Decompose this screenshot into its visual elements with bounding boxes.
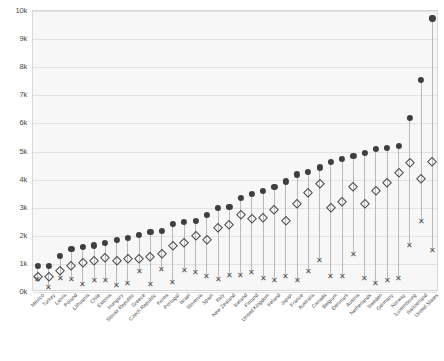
y-axis-tick-label: 5k (19, 146, 27, 155)
diamond-marker (405, 158, 415, 168)
cross-marker: ✕ (418, 217, 425, 224)
connector-line (229, 207, 230, 275)
data-column: ✕ (235, 10, 246, 291)
data-column: ✕ (370, 10, 381, 291)
data-column: ✕ (145, 10, 156, 291)
diamond-marker (156, 249, 166, 259)
data-column: ✕ (77, 10, 88, 291)
cross-marker: ✕ (181, 266, 188, 273)
circle-marker (305, 168, 311, 174)
connector-line (330, 162, 331, 277)
connector-line (274, 187, 275, 280)
cross-marker: ✕ (282, 273, 289, 280)
data-column: ✕ (66, 10, 77, 291)
circle-marker (226, 204, 232, 210)
data-column: ✕ (179, 10, 190, 291)
diamond-marker (427, 157, 437, 167)
circle-marker (407, 115, 413, 121)
diamond-marker (89, 255, 99, 265)
circle-marker (204, 212, 210, 218)
data-column: ✕ (325, 10, 336, 291)
diamond-marker (179, 238, 189, 248)
cross-marker: ✕ (45, 284, 52, 291)
connector-line (263, 191, 264, 278)
circle-marker (113, 236, 119, 242)
circle-marker (362, 150, 368, 156)
cross-marker: ✕ (237, 271, 244, 278)
cross-marker: ✕ (169, 278, 176, 285)
connector-line (251, 194, 252, 272)
connector-line (432, 18, 433, 250)
circle-marker (57, 253, 63, 259)
diamond-marker (416, 173, 426, 183)
diamond-marker (292, 199, 302, 209)
data-column: ✕ (213, 10, 224, 291)
data-column: ✕ (382, 10, 393, 291)
circle-marker (68, 246, 74, 252)
y-axis-tick-label: 2k (19, 230, 27, 239)
cross-marker: ✕ (124, 279, 131, 286)
data-column: ✕ (100, 10, 111, 291)
data-column: ✕ (32, 10, 43, 291)
cross-marker: ✕ (350, 250, 357, 257)
cross-marker: ✕ (158, 265, 165, 272)
x-axis-tick-label: Spain (200, 292, 214, 306)
circle-marker (373, 146, 379, 152)
y-axis-tick-label: 8k (19, 62, 27, 71)
connector-line (375, 149, 376, 283)
cross-marker: ✕ (305, 268, 312, 275)
y-axis: 0k1k2k3k4k5k6k7k8k9k10k (0, 10, 30, 291)
connector-line (409, 118, 410, 245)
circle-marker (102, 240, 108, 246)
diamond-marker (190, 231, 200, 241)
data-column: ✕ (246, 10, 257, 291)
circle-marker (260, 188, 266, 194)
data-column: ✕ (359, 10, 370, 291)
data-column: ✕ (280, 10, 291, 291)
diamond-marker (134, 253, 144, 263)
diamond-marker (100, 253, 110, 263)
chart-figure: 0k1k2k3k4k5k6k7k8k9k10k ✕✕✕✕✕✕✕✕✕✕✕✕✕✕✕✕… (0, 0, 444, 361)
circle-marker (350, 153, 356, 159)
circle-marker (35, 263, 41, 269)
diamond-marker (393, 168, 403, 178)
connector-line (308, 172, 309, 272)
connector-line (172, 224, 173, 282)
data-column: ✕ (337, 10, 348, 291)
circle-marker (328, 159, 334, 165)
cross-marker: ✕ (429, 247, 436, 254)
connector-line (364, 153, 365, 278)
cross-marker: ✕ (203, 272, 210, 279)
cross-marker: ✕ (192, 269, 199, 276)
diamond-marker (314, 179, 324, 189)
diamond-marker (123, 253, 133, 263)
diamond-marker (258, 213, 268, 223)
data-column: ✕ (167, 10, 178, 291)
circle-marker (215, 205, 221, 211)
diamond-marker (78, 258, 88, 268)
connector-line (195, 221, 196, 272)
data-column: ✕ (55, 10, 66, 291)
data-column: ✕ (43, 10, 54, 291)
cross-marker: ✕ (136, 268, 143, 275)
data-column: ✕ (156, 10, 167, 291)
y-axis-tick-label: 9k (19, 34, 27, 43)
cross-marker: ✕ (271, 276, 278, 283)
cross-marker: ✕ (361, 275, 368, 282)
y-axis-tick-label: 0k (19, 287, 27, 296)
cross-marker: ✕ (226, 271, 233, 278)
diamond-marker (382, 178, 392, 188)
diamond-marker (269, 204, 279, 214)
y-axis-tick-label: 7k (19, 90, 27, 99)
data-column: ✕ (292, 10, 303, 291)
diamond-marker (111, 256, 121, 266)
data-points-layer: ✕✕✕✕✕✕✕✕✕✕✕✕✕✕✕✕✕✕✕✕✕✕✕✕✕✕✕✕✕✕✕✕✕✕✕✕ (32, 10, 438, 291)
circle-marker (249, 191, 255, 197)
data-column: ✕ (269, 10, 280, 291)
data-column: ✕ (224, 10, 235, 291)
diamond-marker (303, 187, 313, 197)
data-column: ✕ (122, 10, 133, 291)
cross-marker: ✕ (395, 275, 402, 282)
circle-marker (339, 156, 345, 162)
cross-marker: ✕ (68, 275, 75, 282)
